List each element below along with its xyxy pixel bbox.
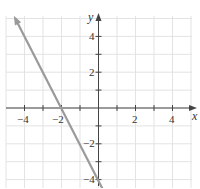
line-arrow-icon bbox=[14, 16, 21, 26]
x-tick-label: 2 bbox=[132, 113, 138, 125]
y-tick-label: 4 bbox=[89, 30, 95, 42]
x-tick-label: −2 bbox=[52, 113, 64, 125]
series-line bbox=[15, 19, 103, 189]
x-axis-label: x bbox=[191, 109, 198, 123]
y-axis-arrow-icon bbox=[96, 13, 102, 21]
y-axis-label: y bbox=[87, 10, 94, 24]
x-tick-label: −4 bbox=[17, 113, 29, 125]
x-tick-label: 4 bbox=[169, 113, 175, 125]
y-tick-label: −2 bbox=[83, 137, 95, 149]
y-tick-label: −4 bbox=[83, 173, 95, 185]
y-tick-label: 2 bbox=[89, 66, 95, 78]
line-graph: x y −4 −2 2 4 4 2 −2 −4 bbox=[0, 0, 200, 188]
